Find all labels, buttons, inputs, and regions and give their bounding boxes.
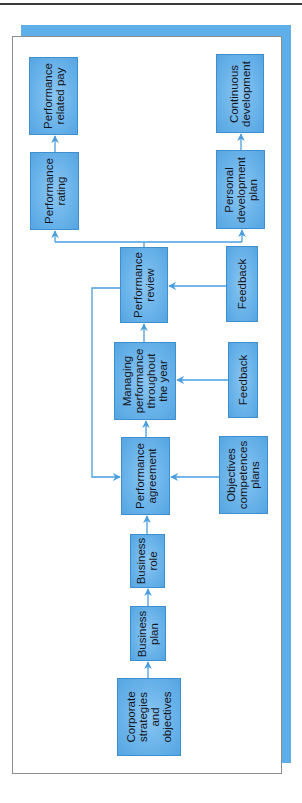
node-feedback-review: Feedback bbox=[226, 246, 258, 322]
node-performance-agreement: Performance agreement bbox=[121, 437, 170, 515]
node-label: Business plan bbox=[136, 610, 160, 657]
node-label: Performance agreement bbox=[134, 443, 158, 509]
node-continuous-development: Continuous development bbox=[216, 54, 264, 133]
node-corporate-strategies: Corporate strategies and objectives bbox=[117, 678, 181, 756]
node-managing-performance: Managing performance throughout the year bbox=[114, 342, 176, 420]
page-top-rule bbox=[0, 3, 302, 5]
node-business-role: Business role bbox=[130, 534, 165, 588]
node-label: Continuous development bbox=[228, 61, 252, 127]
node-label: Managing performance throughout the year bbox=[121, 349, 169, 414]
node-label: Performance review bbox=[132, 252, 156, 318]
node-label: Performance related pay bbox=[42, 63, 66, 129]
node-performance-related-pay: Performance related pay bbox=[29, 57, 78, 135]
node-performance-review: Performance review bbox=[120, 247, 168, 323]
node-performance-rating: Performance rating bbox=[30, 152, 79, 230]
node-business-plan: Business plan bbox=[130, 606, 166, 661]
frame-shadow-right bbox=[282, 25, 291, 763]
node-label: Corporate strategies and objectives bbox=[125, 691, 173, 742]
node-feedback-managing: Feedback bbox=[228, 342, 258, 418]
node-personal-development-plan: Personal development plan bbox=[216, 150, 265, 229]
node-label: Objectives competences plans bbox=[226, 441, 262, 509]
node-label: Feedback bbox=[237, 355, 249, 406]
node-label: Personal development plan bbox=[223, 157, 259, 223]
node-label: Business role bbox=[136, 538, 160, 585]
node-objectives-competences-plans: Objectives competences plans bbox=[219, 436, 268, 514]
node-label: Feedback bbox=[236, 259, 248, 310]
node-label: Performance rating bbox=[43, 158, 67, 224]
